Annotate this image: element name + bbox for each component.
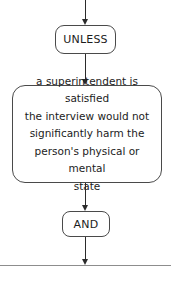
flowchart-canvas: UNLESS a superintendent is satisfied the… [0,0,171,284]
connector-statement-to-and [85,183,86,206]
connector-into-unless [85,0,86,20]
node-statement[interactable]: a superintendent is satisfied the interv… [12,85,162,183]
section-divider [0,265,171,266]
connector-and-to-divider [85,237,86,261]
node-statement-label: a superintendent is satisfied the interv… [19,73,155,196]
node-and-label: AND [74,218,99,231]
node-unless-label: UNLESS [63,33,108,46]
node-and[interactable]: AND [62,211,110,237]
node-unless[interactable]: UNLESS [55,25,116,54]
